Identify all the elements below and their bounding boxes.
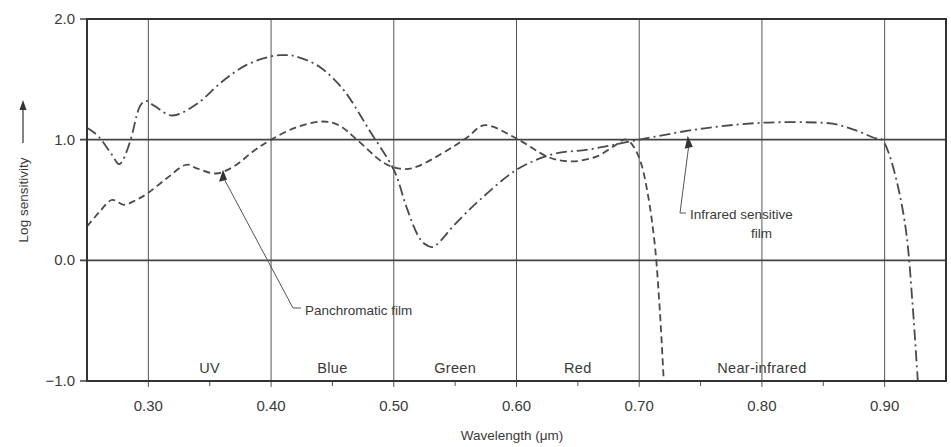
x-tick-label: 0.80 xyxy=(747,397,776,414)
band-label: Red xyxy=(564,360,592,376)
x-tick-label: 0.70 xyxy=(625,397,654,414)
y-tick-label: 1.0 xyxy=(54,131,75,148)
annotation-panchromatic: Panchromatic film xyxy=(219,170,412,318)
log-sensitivity-chart: 0.300.400.500.600.700.800.902.01.00.0−1.… xyxy=(0,0,951,447)
y-tick-label: 2.0 xyxy=(54,10,75,27)
annotation-panchromatic-label: Panchromatic film xyxy=(305,303,412,318)
x-tick-label: 0.30 xyxy=(134,397,163,414)
band-label: Green xyxy=(434,360,476,376)
annotation-infrared-label-line1: Infrared sensitive xyxy=(690,207,793,222)
annotation-infrared-label-line2: film xyxy=(751,226,772,241)
y-axis-label: Log sensitivity xyxy=(16,157,31,242)
band-label: Blue xyxy=(317,360,347,376)
panchromatic-film-curve xyxy=(87,122,664,381)
band-labels: UVBlueGreenRedNear-infrared xyxy=(199,360,806,376)
band-label: UV xyxy=(199,360,220,376)
x-tick-label: 0.90 xyxy=(870,397,899,414)
x-tick-label: 0.40 xyxy=(256,397,285,414)
grid xyxy=(80,19,946,387)
y-tick-label: 0.0 xyxy=(54,251,75,268)
band-label: Near-infrared xyxy=(717,360,806,376)
y-tick-label: −1.0 xyxy=(45,372,75,389)
y-axis-arrow-icon xyxy=(20,100,27,143)
x-tick-label: 0.60 xyxy=(502,397,531,414)
arrowhead-icon xyxy=(685,136,693,149)
leader-line xyxy=(680,146,689,213)
x-axis-label: Wavelength (μm) xyxy=(461,428,564,443)
leader-line xyxy=(224,179,301,308)
infrared-film-curve xyxy=(87,55,918,381)
x-tick-label: 0.50 xyxy=(379,397,408,414)
curves xyxy=(87,55,918,381)
annotation-infrared: Infrared sensitive film xyxy=(680,136,793,241)
y-axis-title: Log sensitivity xyxy=(16,157,31,242)
